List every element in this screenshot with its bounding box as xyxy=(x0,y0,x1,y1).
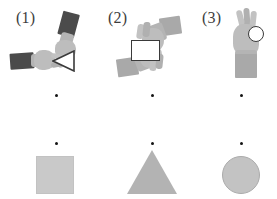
panel-3-label: (3) xyxy=(202,9,221,27)
panel-2: (2) xyxy=(97,0,193,105)
panel-3: (3) xyxy=(193,0,277,105)
two-hands-triangle-gesture-icon xyxy=(10,10,92,82)
lower-dot-3 xyxy=(240,142,243,145)
one-hand-ok-circle-gesture-icon xyxy=(225,8,273,86)
circle-shape-icon xyxy=(222,156,260,194)
upper-dot-3 xyxy=(240,94,243,97)
two-hands-rectangle-gesture-icon xyxy=(115,8,187,86)
lower-dot-1 xyxy=(55,142,58,145)
square-shape-icon xyxy=(36,156,74,194)
upper-dot-2 xyxy=(151,94,154,97)
rectangle-outline-gesture xyxy=(131,40,160,61)
sleeve xyxy=(235,54,257,78)
upper-dot-1 xyxy=(55,94,58,97)
triangle-shape-icon xyxy=(127,150,177,194)
circle-outline-gesture xyxy=(248,26,264,42)
triangle-outline-gesture xyxy=(52,50,76,72)
panel-1: (1) xyxy=(0,0,97,105)
lower-dot-2 xyxy=(151,142,154,145)
figure-canvas: (1) (2) xyxy=(0,0,277,199)
